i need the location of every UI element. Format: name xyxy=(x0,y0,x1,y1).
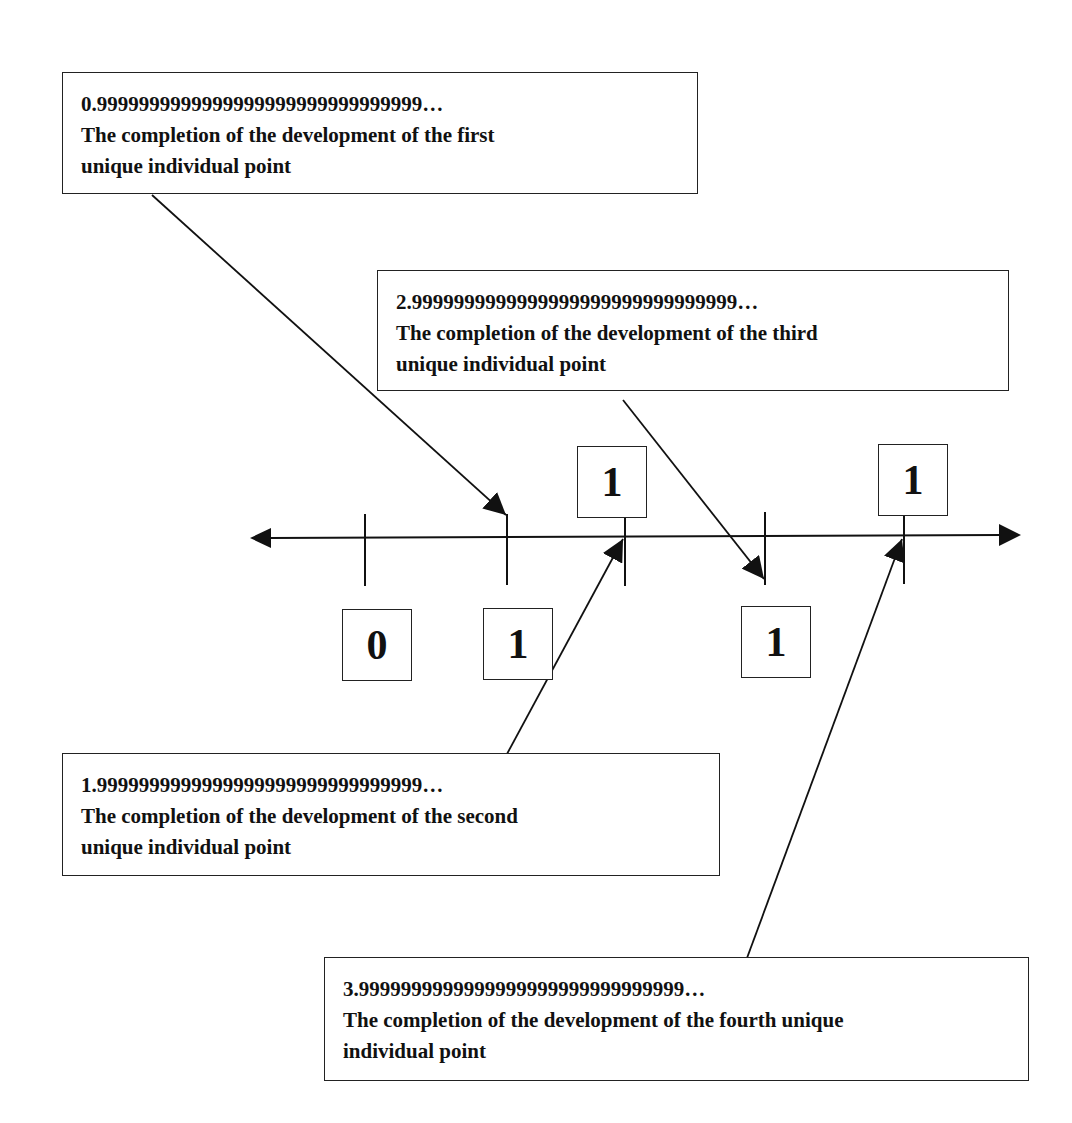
tick-label-4: 1 xyxy=(903,459,924,501)
tick-label-0: 0 xyxy=(367,624,388,666)
callout-third-number: 2.9999999999999999999999999999999… xyxy=(396,287,1008,318)
callout-first-number: 0.9999999999999999999999999999999… xyxy=(81,89,697,120)
arrow-fourth-to-tick-4 xyxy=(747,539,902,958)
callout-second-line2: unique individual point xyxy=(81,832,719,863)
tick-label-2: 1 xyxy=(602,461,623,503)
axis-right-arrow-icon xyxy=(999,524,1021,546)
tick-label-box-1: 1 xyxy=(483,608,553,680)
callout-third-line2: unique individual point xyxy=(396,349,1008,380)
tick-label-3: 1 xyxy=(766,621,787,663)
tick-label-box-0: 0 xyxy=(342,609,412,681)
tick-label-box-3: 1 xyxy=(741,606,811,678)
tick-label-1: 1 xyxy=(508,623,529,665)
callout-first-line1: The completion of the development of the… xyxy=(81,120,697,151)
callout-second-line1: The completion of the development of the… xyxy=(81,801,719,832)
callout-first-point: 0.9999999999999999999999999999999… The c… xyxy=(62,72,698,194)
callout-fourth-line1: The completion of the development of the… xyxy=(343,1005,1028,1036)
callout-second-point: 1.9999999999999999999999999999999… The c… xyxy=(62,753,720,876)
tick-label-box-2: 1 xyxy=(577,446,647,518)
callout-third-line1: The completion of the development of the… xyxy=(396,318,1008,349)
callout-first-line2: unique individual point xyxy=(81,151,697,182)
callout-fourth-number: 3.9999999999999999999999999999999… xyxy=(343,974,1028,1005)
callout-third-point: 2.9999999999999999999999999999999… The c… xyxy=(377,270,1009,391)
callout-fourth-line2: individual point xyxy=(343,1036,1028,1067)
callout-fourth-point: 3.9999999999999999999999999999999… The c… xyxy=(324,957,1029,1081)
tick-label-box-4: 1 xyxy=(878,444,948,516)
callout-second-number: 1.9999999999999999999999999999999… xyxy=(81,770,719,801)
axis-left-arrow-icon xyxy=(250,528,271,548)
axis-ticks xyxy=(365,512,904,586)
